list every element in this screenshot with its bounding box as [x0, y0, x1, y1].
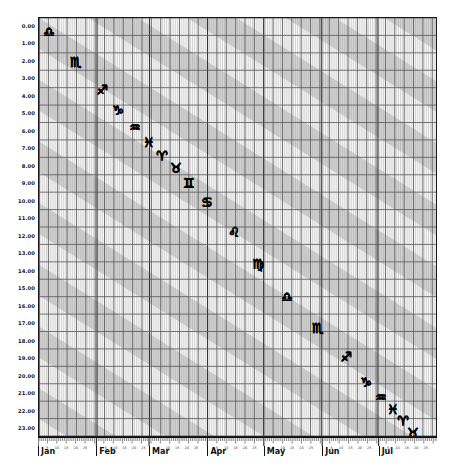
- x-axis-day-label: 10: [339, 446, 343, 450]
- x-axis-day-label: 15: [290, 446, 294, 450]
- astrology-hour-chart: 0.001.002.003.004.005.006.007.008.009.00…: [0, 0, 450, 471]
- x-axis-day-label: 15: [122, 446, 126, 450]
- x-axis-day-label: 15: [233, 446, 237, 450]
- y-axis: 0.001.002.003.004.005.006.007.008.009.00…: [0, 17, 38, 437]
- y-axis-tick-label: 22.00: [18, 408, 35, 414]
- zodiac-glyph-leo: ♌: [228, 226, 240, 239]
- x-axis-day-label: 10: [113, 446, 117, 450]
- x-axis-day-label: 5: [157, 446, 159, 450]
- y-axis-tick-label: 21.00: [18, 390, 35, 396]
- x-axis-day-label: 15: [405, 446, 409, 450]
- zodiac-glyph-layer: ♎♏♐♑♒♓♈♉♊♋♌♍♎♏♐♑♒♓♈♉: [39, 18, 436, 436]
- y-axis-tick-label: 18.00: [18, 338, 35, 344]
- y-axis-tick-label: 3.00: [22, 75, 35, 81]
- y-axis-tick-label: 7.00: [22, 145, 35, 151]
- zodiac-glyph-sagittarius: ♐: [340, 351, 352, 364]
- x-axis-day-label: 15: [175, 446, 179, 450]
- y-axis-tick-label: 14.00: [18, 268, 35, 274]
- y-axis-tick-label: 2.00: [22, 58, 35, 64]
- y-axis-tick-label: 4.00: [22, 93, 35, 99]
- x-axis-day-label: 5: [272, 446, 274, 450]
- x-axis-day-label: 10: [224, 446, 228, 450]
- y-axis-tick-label: 17.00: [18, 320, 35, 326]
- zodiac-glyph-scorpio: ♏: [312, 322, 324, 335]
- x-axis-day-label: 5: [46, 446, 48, 450]
- zodiac-glyph-libra: ♎: [281, 291, 293, 304]
- y-axis-tick-label: 10.00: [18, 198, 35, 204]
- zodiac-glyph-scorpio: ♏: [70, 56, 82, 69]
- x-axis-day-label: 15: [348, 446, 352, 450]
- zodiac-glyph-sagittarius: ♐: [96, 84, 108, 97]
- x-axis-day-label: 25: [252, 446, 256, 450]
- x-axis-day-label: 20: [132, 446, 136, 450]
- zodiac-glyph-aquarius: ♒: [129, 121, 141, 134]
- x-axis-day-label: 20: [73, 446, 77, 450]
- zodiac-glyph-pisces: ♓: [143, 136, 155, 149]
- zodiac-glyph-libra: ♎: [43, 26, 55, 39]
- x-axis-day-label: 25: [83, 446, 87, 450]
- x-axis-day-label: 5: [105, 446, 107, 450]
- x-axis-day-label: 25: [141, 446, 145, 450]
- y-axis-tick-label: 19.00: [18, 355, 35, 361]
- x-axis-day-label: 20: [299, 446, 303, 450]
- y-axis-tick-label: 5.00: [22, 110, 35, 116]
- x-axis-day-label: 10: [395, 446, 399, 450]
- x-axis-day-label: 5: [216, 446, 218, 450]
- y-axis-tick-label: 8.00: [22, 163, 35, 169]
- x-axis: Jan510152025Feb510152025Mar510152025Apr5…: [38, 437, 437, 471]
- y-axis-tick-label: 20.00: [18, 373, 35, 379]
- y-axis-tick-label: 16.00: [18, 303, 35, 309]
- zodiac-glyph-taurus: ♉: [407, 427, 419, 438]
- x-axis-ruler-ticks: [38, 437, 437, 446]
- x-axis-day-label: 25: [194, 446, 198, 450]
- x-axis-day-label: 20: [243, 446, 247, 450]
- y-axis-tick-label: 1.00: [22, 40, 35, 46]
- zodiac-glyph-virgo: ♍: [252, 258, 264, 271]
- x-axis-day-label: 10: [166, 446, 170, 450]
- x-axis-day-label: 20: [185, 446, 189, 450]
- zodiac-glyph-capricorn: ♑: [112, 104, 124, 117]
- y-axis-tick-label: 15.00: [18, 285, 35, 291]
- plot-area: ♎♏♐♑♒♓♈♉♊♋♌♍♎♏♐♑♒♓♈♉: [38, 17, 437, 437]
- zodiac-glyph-aries: ♈: [156, 150, 168, 163]
- y-axis-tick-label: 23.00: [18, 425, 35, 431]
- x-axis-day-label: 25: [424, 446, 428, 450]
- x-axis-day-label: 20: [414, 446, 418, 450]
- y-axis-tick-label: 12.00: [18, 233, 35, 239]
- x-axis-day-label: 5: [331, 446, 333, 450]
- x-axis-day-label: 25: [367, 446, 371, 450]
- y-axis-tick-label: 0.00: [22, 23, 35, 29]
- y-axis-tick-label: 9.00: [22, 180, 35, 186]
- x-axis-day-label: 20: [358, 446, 362, 450]
- y-axis-tick-label: 11.00: [18, 215, 35, 221]
- zodiac-glyph-taurus: ♉: [170, 162, 182, 175]
- x-axis-day-label: 5: [387, 446, 389, 450]
- zodiac-glyph-cancer: ♋: [201, 196, 213, 209]
- y-axis-tick-label: 13.00: [18, 250, 35, 256]
- zodiac-glyph-gemini: ♊: [183, 177, 195, 190]
- x-axis-day-label: 15: [64, 446, 68, 450]
- zodiac-glyph-capricorn: ♑: [360, 376, 372, 389]
- zodiac-glyph-aquarius: ♒: [375, 391, 387, 404]
- y-axis-tick-label: 6.00: [22, 128, 35, 134]
- x-axis-day-label: 10: [280, 446, 284, 450]
- x-axis-day-label: 10: [55, 446, 59, 450]
- x-axis-day-label: 25: [309, 446, 313, 450]
